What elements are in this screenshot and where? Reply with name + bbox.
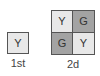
cell-text: Y <box>80 37 87 49</box>
first-generation-box: Y <box>7 32 29 54</box>
cell-text: Y <box>14 37 21 49</box>
second-generation-label: 2d <box>60 58 86 70</box>
second-generation-grid: Y G G Y <box>51 10 95 55</box>
cell-2d-bottom-right: Y <box>73 33 94 55</box>
cell-text: G <box>58 37 67 49</box>
cell-2d-bottom-left: G <box>52 33 73 55</box>
first-generation-label: 1st <box>5 57 31 69</box>
cell-2d-top-left: Y <box>52 11 73 33</box>
cell-text: Y <box>58 15 65 27</box>
cell-2d-top-right: G <box>73 11 94 33</box>
cell-1st-0: Y <box>8 33 28 53</box>
cell-text: G <box>79 15 88 27</box>
